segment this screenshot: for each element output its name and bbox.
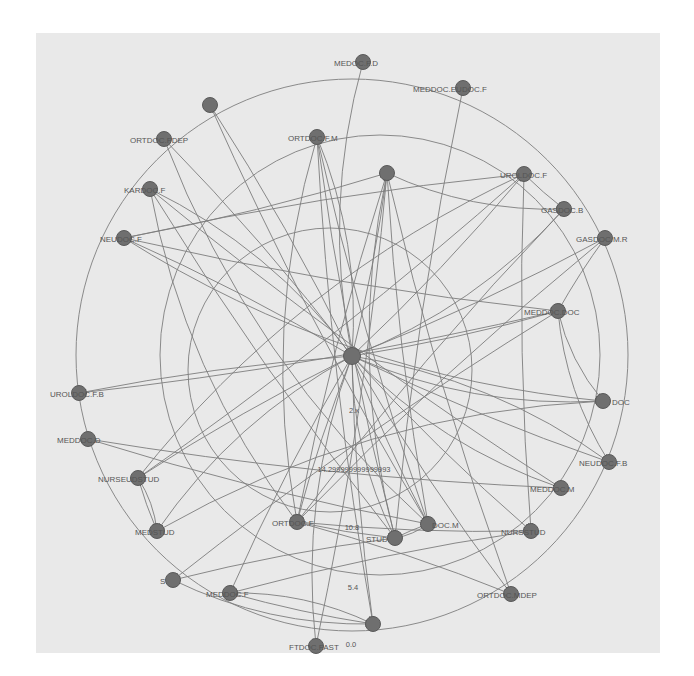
node-circle[interactable] (380, 166, 395, 181)
edge-n5-n27 (317, 137, 373, 624)
node-label: UROLDOC.F (500, 171, 547, 180)
node-label: MEDDOC.F (206, 590, 249, 599)
node-circle[interactable] (203, 98, 218, 113)
node-n22[interactable]: STUD (366, 531, 403, 546)
node-label: MEDDOC.EUDOC.F (413, 85, 487, 94)
node-n11[interactable]: GASDOC.M.R (576, 231, 628, 246)
node-label: FTDOC.FAST (289, 643, 339, 652)
node-label: NEUDOC.F.B (579, 459, 627, 468)
edge-hub-n10 (124, 238, 352, 356)
edge-n13-n12 (79, 311, 558, 393)
node-n20[interactable]: ORTDOC.F (272, 515, 314, 530)
edge-n10-n6 (124, 173, 387, 238)
edge-value-label: 10.8 (345, 523, 360, 532)
node-circle[interactable] (366, 617, 381, 632)
node-label: ORTDOC.FDEP (130, 136, 188, 145)
node-n21[interactable]: DOC.M (421, 517, 460, 532)
node-label: MEDDOC.DOC (524, 308, 580, 317)
edge-n16-hub (352, 356, 609, 462)
node-label: DOC.M (432, 521, 459, 530)
node-n24[interactable]: S (160, 573, 181, 588)
node-label: ORTDOC.MDEP (477, 591, 537, 600)
node-label: GASDOC.B (541, 206, 583, 215)
edge-value-label: 2.x (349, 406, 359, 415)
node-n13[interactable]: UROLDOC.F.B (50, 386, 104, 401)
node-label: MEDDOC.M (530, 485, 575, 494)
edge-value-label: 5.4 (348, 583, 358, 592)
node-label: MEDDOC.D (57, 436, 101, 445)
node-n4[interactable]: ORTDOC.FDEP (130, 132, 188, 147)
edge-hub-n13 (79, 356, 352, 393)
edge-n24-n27 (173, 580, 373, 624)
node-label: NURSSTUD (501, 528, 546, 537)
node-label: ORTDOC.F (272, 519, 314, 528)
edge-n17-n7 (138, 174, 524, 478)
graph-nodes: MEDOC.F.DMEDDOC.EUDOC.FORTDOC.FDEPORTDOC… (50, 55, 630, 654)
node-hub[interactable] (344, 348, 361, 365)
edge-n7-n23 (522, 174, 531, 531)
node-label: NURSEUDSTUD (98, 475, 160, 484)
node-n16[interactable]: NEUDOC.F.B (579, 455, 627, 470)
network-graph: 2.x14.29999999999999310.85.40.0 MEDOC.F.… (0, 0, 694, 676)
node-circle[interactable] (344, 348, 361, 365)
edge-n1-hub (339, 62, 363, 356)
edge-n20-n23 (297, 522, 531, 531)
edge-n7-n17 (138, 174, 524, 478)
node-label: STUD (366, 535, 388, 544)
node-label: MEDOC.F.D (334, 59, 378, 68)
node-n27[interactable] (366, 617, 381, 632)
node-n23[interactable]: NURSSTUD (501, 524, 546, 539)
node-n19[interactable]: MEDSTUD (135, 524, 175, 539)
node-label: GASDOC.M.R (576, 235, 628, 244)
edge-n17-n19 (138, 478, 157, 531)
node-n12[interactable]: MEDDOC.DOC (524, 304, 580, 319)
node-n17[interactable]: NURSEUDSTUD (98, 471, 160, 486)
node-n1[interactable]: MEDOC.F.D (334, 55, 378, 70)
node-n7[interactable]: UROLDOC.F (500, 167, 547, 182)
node-n9[interactable]: GASDOC.B (541, 202, 583, 217)
edge-n11-n12 (558, 238, 605, 311)
node-label: S (160, 577, 165, 586)
edge-n9-n20 (297, 209, 564, 522)
node-n26[interactable]: ORTDOC.MDEP (477, 587, 537, 602)
edge-value-label: 0.0 (346, 640, 356, 649)
node-n28[interactable]: FTDOC.FAST (289, 639, 339, 654)
node-n15[interactable]: MEDDOC.D (57, 432, 101, 447)
edge-hub-n16 (352, 356, 609, 462)
node-circle[interactable] (596, 394, 611, 409)
edge-value-label: 14.299999999999993 (318, 465, 391, 474)
node-circle[interactable] (388, 531, 403, 546)
node-label: NEUDOC.F (100, 235, 142, 244)
node-n8[interactable]: KARDOC.F (124, 182, 165, 197)
node-label: MEDSTUD (135, 528, 175, 537)
node-n6[interactable] (380, 166, 395, 181)
node-label: DOC (612, 398, 630, 407)
layout-ring-1 (160, 135, 600, 575)
node-n25[interactable]: MEDDOC.F (206, 586, 249, 601)
node-n10[interactable]: NEUDOC.F (100, 231, 142, 246)
node-circle[interactable] (166, 573, 181, 588)
edge-n6-n21 (387, 173, 428, 524)
node-n2[interactable]: MEDDOC.EUDOC.F (413, 81, 487, 96)
node-n3[interactable] (203, 98, 218, 113)
node-label: KARDOC.F (124, 186, 165, 195)
node-label: ORTDOC.F.M (288, 134, 338, 143)
edge-hub-n11 (352, 238, 605, 356)
node-n5[interactable]: ORTDOC.F.M (288, 130, 338, 145)
node-label: UROLDOC.F.B (50, 390, 104, 399)
